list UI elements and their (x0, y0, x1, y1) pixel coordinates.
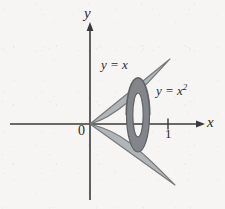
curve-label-line: y = x (101, 58, 128, 71)
washer-cross-section (120, 74, 156, 156)
x-tick-label-1: 1 (165, 127, 172, 140)
x-axis-label: x (207, 115, 214, 130)
washer-ring-fill (120, 74, 156, 156)
y-axis-arrowhead (87, 22, 94, 31)
curve-label-parabola: y = x2 (156, 83, 187, 97)
x-axis-arrowhead (196, 121, 205, 128)
origin-label: 0 (78, 124, 85, 138)
figure-canvas: y x 0 1 y = x y = x2 (0, 0, 225, 209)
y-axis-label: y (84, 6, 91, 21)
curve-label-parabola-text: y = x (156, 83, 183, 98)
plot-area (0, 0, 225, 209)
curve-label-parabola-exponent: 2 (183, 82, 187, 92)
